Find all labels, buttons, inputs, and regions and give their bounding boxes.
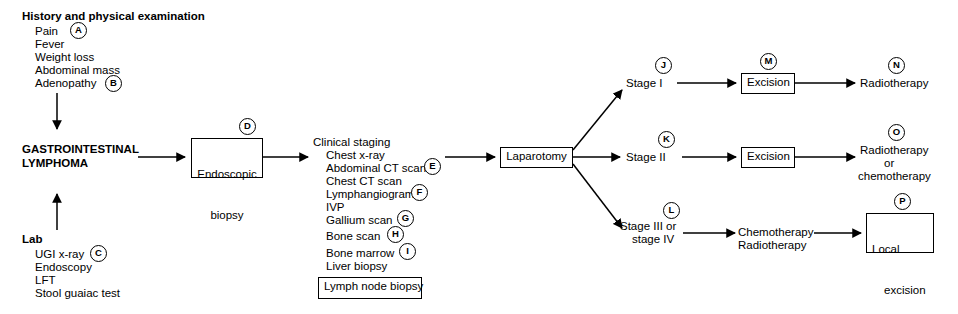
lab-item-endoscopy: Endoscopy	[35, 261, 92, 275]
history-item-fever: Fever	[35, 38, 64, 52]
chemo-radio-line2: Radiotherapy	[738, 239, 806, 253]
stage-2-label: Stage II	[626, 151, 666, 165]
annotation-k-icon: K	[658, 131, 675, 148]
annotation-a-icon: A	[70, 22, 87, 39]
annotation-n-icon: N	[888, 57, 905, 74]
stage-34-label-line2: stage IV	[632, 233, 674, 247]
annotation-l-icon: L	[663, 202, 680, 219]
excision-box-stage-2: Excision	[741, 147, 795, 168]
local-excision-line2: excision	[872, 284, 928, 298]
staging-item-abdominal-ct-scan: Abdominal CT scan	[326, 162, 426, 176]
history-item-abdominal-mass: Abdominal mass	[35, 64, 120, 78]
history-item-weight-loss: Weight loss	[35, 51, 94, 65]
radio-or-chemo-line1: Radiotherapy	[860, 144, 928, 158]
annotation-m-icon: M	[760, 53, 777, 70]
flowchart-connectors	[0, 0, 958, 314]
flowchart-diagram: History and physical examination Pain Fe…	[0, 0, 958, 314]
endoscopic-biopsy-line1: Endoscopic	[197, 168, 257, 182]
staging-item-liver-biopsy: Liver biopsy	[326, 260, 387, 274]
stage-1-label: Stage I	[626, 77, 662, 91]
stage-34-label-line1: Stage III or	[620, 220, 676, 234]
endoscopic-biopsy-line2: biopsy	[197, 209, 257, 223]
history-item-pain: Pain	[35, 25, 58, 39]
radio-or-chemo-line3: chemotherapy	[858, 170, 931, 184]
clinical-staging-heading: Clinical staging	[313, 136, 390, 150]
lab-item-stool-guaiac-test: Stool guaiac test	[35, 287, 120, 301]
staging-item-chest-ct-scan: Chest CT scan	[326, 175, 402, 189]
radiotherapy-label: Radiotherapy	[860, 77, 928, 91]
lab-item-lft: LFT	[35, 274, 55, 288]
chemo-radio-line1: Chemotherapy	[738, 226, 813, 240]
local-excision-box: Local excision	[866, 213, 934, 253]
history-item-adenopathy: Adenopathy	[35, 77, 96, 91]
local-excision-line1: Local	[872, 243, 928, 257]
annotation-i-icon: I	[399, 243, 416, 260]
lymph-node-biopsy-box: Lymph node biopsy	[318, 277, 422, 299]
annotation-e-icon: E	[424, 158, 441, 175]
annotation-o-icon: O	[888, 124, 905, 141]
staging-item-gallium-scan: Gallium scan	[326, 214, 392, 228]
annotation-p-icon: P	[894, 193, 911, 210]
endoscopic-biopsy-box: Endoscopic biopsy	[191, 138, 263, 178]
history-heading: History and physical examination	[22, 10, 205, 24]
annotation-f-icon: F	[411, 184, 428, 201]
excision-box-stage-1: Excision	[741, 73, 795, 94]
staging-item-chest-xray: Chest x-ray	[326, 149, 385, 163]
annotation-g-icon: G	[397, 210, 414, 227]
staging-item-lymphangiogram: Lymphangiogram	[326, 188, 414, 202]
annotation-d-icon: D	[239, 118, 256, 135]
staging-item-bone-marrow: Bone marrow	[326, 247, 394, 261]
annotation-h-icon: H	[387, 226, 404, 243]
annotation-j-icon: J	[655, 57, 672, 74]
diagnosis-label-line1: GASTROINTESTINAL	[22, 143, 139, 157]
staging-item-ivp: IVP	[326, 201, 345, 215]
lab-heading: Lab	[22, 233, 42, 247]
laparotomy-box: Laparotomy	[500, 147, 573, 168]
radio-or-chemo-line2: or	[884, 157, 894, 171]
annotation-c-icon: C	[90, 245, 107, 262]
diagnosis-label-line2: LYMPHOMA	[22, 157, 88, 171]
staging-item-bone-scan: Bone scan	[326, 230, 380, 244]
annotation-b-icon: B	[105, 75, 122, 92]
lab-item-ugi-xray: UGI x-ray	[35, 248, 84, 262]
